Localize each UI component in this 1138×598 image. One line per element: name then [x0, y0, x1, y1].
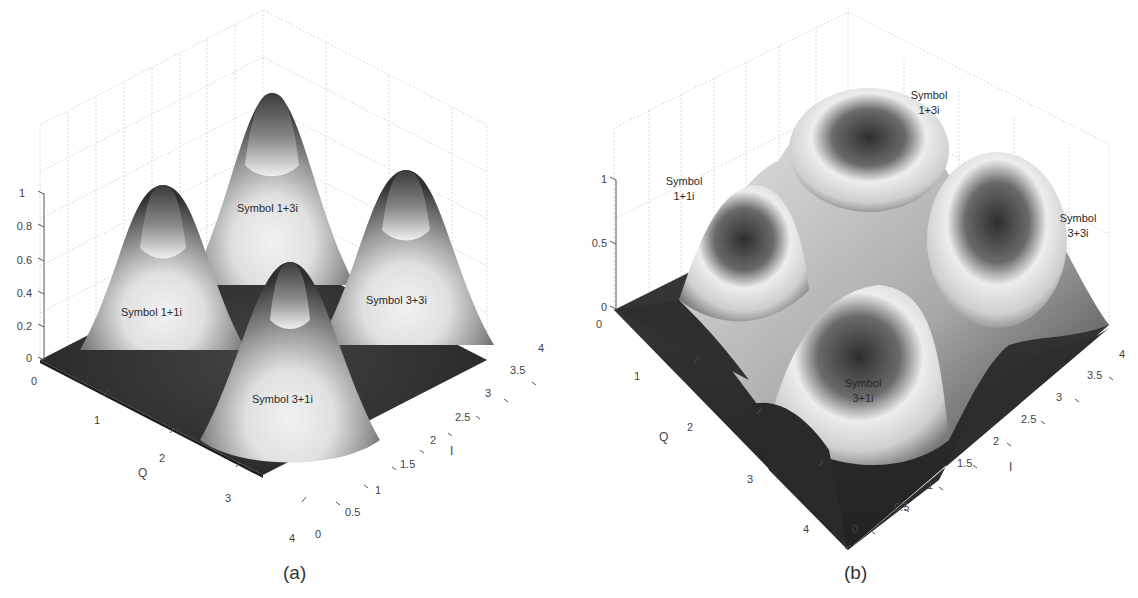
label-symbol-1-3i-a: Symbol 1+3i — [237, 202, 298, 214]
i-tick-2.5-b: 2.5 — [1021, 413, 1036, 425]
q-tick-4-b: 4 — [803, 523, 809, 535]
label-symbol-3-3i-b-line1: Symbol — [1060, 212, 1097, 224]
q-tick-3-b: 3 — [747, 473, 753, 485]
i-tick-2.5: 2.5 — [455, 411, 470, 423]
z-tick-1-b: 1 — [601, 173, 607, 185]
peak-1-3i-a — [190, 93, 355, 285]
i-tick-4: 4 — [538, 342, 544, 354]
i-tick-1.5-b: 1.5 — [957, 457, 972, 469]
i-tick-2-b: 2 — [993, 435, 999, 447]
i-tick-3.5: 3.5 — [510, 364, 525, 376]
q-axis-label-b: Q — [659, 430, 668, 444]
q-tick-2: 2 — [159, 452, 165, 464]
i-tick-0-b: 0 — [852, 523, 858, 535]
z-axis-b: 1 0.5 0 — [592, 173, 616, 313]
q-tick-1: 1 — [94, 414, 100, 426]
plot-b-canvas: Symbol 1+1i Symbol 1+3i Symbol 3+3i Symb… — [569, 0, 1138, 598]
i-tick-2: 2 — [430, 434, 436, 446]
q-tick-0: 0 — [31, 375, 37, 387]
q-tick-0-b: 0 — [596, 318, 602, 330]
label-symbol-1-1i-b-line1: Symbol — [666, 175, 703, 187]
label-symbol-3-3i-b-line2: 3+3i — [1067, 227, 1088, 239]
plot-a-canvas: Symbol 1+3i Symbol 1+1i Symbol 3+3i Symb… — [0, 0, 569, 598]
caption-a: (a) — [283, 562, 306, 584]
q-tick-2-b: 2 — [687, 421, 693, 433]
i-tick-0.5-b: 0.5 — [894, 501, 909, 513]
label-symbol-1-3i-b-line1: Symbol — [911, 89, 948, 101]
label-symbol-3-1i-b-line2: 3+1i — [852, 392, 873, 404]
i-tick-1: 1 — [375, 484, 381, 496]
i-tick-3: 3 — [485, 387, 491, 399]
label-symbol-3-3i-a: Symbol 3+3i — [366, 294, 427, 306]
label-symbol-1-3i-b-line2: 1+3i — [918, 104, 939, 116]
z-tick-0.8: 0.8 — [17, 220, 32, 232]
i-tick-1.5: 1.5 — [400, 458, 415, 470]
surface-plot-b: Symbol 1+1i Symbol 1+3i Symbol 3+3i Symb… — [569, 0, 1138, 598]
peak-3-3i-a — [318, 170, 494, 345]
label-symbol-1-1i-b-line2: 1+1i — [673, 190, 694, 202]
caption-b: (b) — [844, 562, 867, 584]
i-tick-1-b: 1 — [927, 479, 933, 491]
i-tick-0.5: 0.5 — [345, 506, 360, 518]
z-tick-0-b: 0 — [601, 301, 607, 313]
i-axis-label-b: I — [1009, 460, 1012, 474]
q-tick-4: 4 — [289, 532, 295, 544]
z-tick-0.6: 0.6 — [17, 254, 32, 266]
i-axis-label-a: I — [450, 444, 453, 458]
i-tick-4-b: 4 — [1119, 348, 1125, 360]
z-tick-0.5-b: 0.5 — [592, 237, 607, 249]
z-tick-0.2: 0.2 — [17, 320, 32, 332]
z-tick-0.4: 0.4 — [17, 287, 32, 299]
peak-3-3i-b — [927, 152, 1067, 328]
i-tick-3.5-b: 3.5 — [1087, 369, 1102, 381]
q-tick-1-b: 1 — [634, 370, 640, 382]
z-tick-1: 1 — [19, 187, 25, 199]
i-tick-0: 0 — [315, 528, 321, 540]
surface-plot-a: Symbol 1+3i Symbol 1+1i Symbol 3+3i Symb… — [0, 0, 569, 598]
label-symbol-3-1i-a: Symbol 3+1i — [252, 393, 313, 405]
q-tick-3: 3 — [225, 492, 231, 504]
z-tick-0: 0 — [26, 352, 32, 364]
label-symbol-3-1i-b-line1: Symbol — [845, 377, 882, 389]
label-symbol-1-1i-a: Symbol 1+1i — [121, 306, 182, 318]
i-tick-3-b: 3 — [1056, 391, 1062, 403]
q-axis-label-a: Q — [138, 466, 147, 480]
